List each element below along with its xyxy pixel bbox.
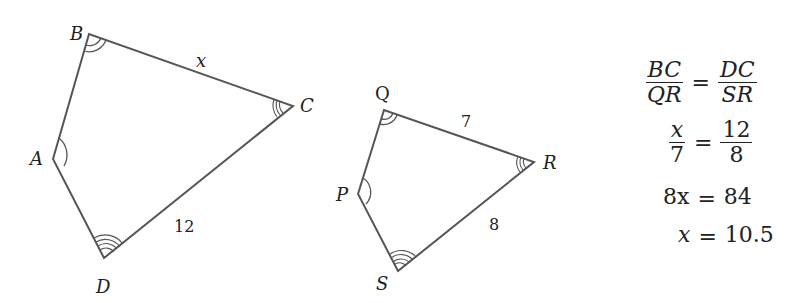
fraction-dc-sr: DC SR [718, 58, 756, 107]
vertex-label-s: S [376, 273, 388, 294]
denominator-sr: SR [719, 83, 755, 107]
numerator-dc: DC [718, 58, 756, 83]
vertex-label-c: C [300, 95, 314, 116]
side-label-sr: 8 [489, 215, 499, 234]
lhs-x: x [678, 222, 690, 247]
equation-cross-multiplied: 8x=84 [663, 184, 752, 211]
denominator-7: 7 [668, 143, 686, 167]
vertex-label-d: D [95, 276, 111, 297]
numerator-bc: BC [646, 58, 683, 83]
equals-sign: = [692, 70, 710, 95]
vertex-label-b: B [69, 23, 83, 44]
vertex-label-a: A [28, 148, 43, 169]
denominator-8: 8 [727, 143, 745, 167]
vertex-label-r: R [542, 152, 557, 173]
denominator-qr: QR [645, 83, 684, 107]
quadrilateral-abcd [53, 34, 293, 258]
equation-solution: x=10.5 [678, 222, 774, 249]
rhs-84: 84 [724, 184, 752, 209]
equation-substituted: x 7 = 12 8 [668, 118, 752, 167]
numerator-12: 12 [720, 118, 752, 143]
rhs-10-5: 10.5 [725, 222, 774, 247]
vertex-label-p: P [335, 184, 349, 205]
fraction-bc-qr: BC QR [645, 58, 684, 107]
fraction-12-8: 12 8 [720, 118, 752, 167]
side-label-dc: 12 [174, 217, 194, 236]
numerator-x: x [669, 118, 685, 143]
side-label-qr: 7 [461, 112, 471, 131]
equals-sign: = [698, 224, 716, 249]
equation-proportion: BC QR = DC SR [645, 58, 757, 107]
fraction-x-7: x 7 [668, 118, 686, 167]
equals-sign: = [694, 130, 712, 155]
vertex-label-q: Q [375, 83, 390, 104]
side-label-bc: x [196, 50, 206, 71]
equals-sign: = [697, 186, 715, 211]
lhs-8x: 8x [663, 184, 689, 209]
quadrilateral-pqrs [358, 110, 534, 271]
